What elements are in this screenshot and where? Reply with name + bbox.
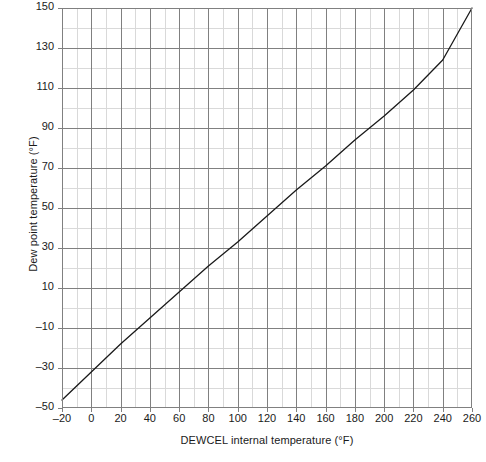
- x-tick-label-text: 40: [144, 412, 156, 424]
- x-tick-label-text: 80: [202, 412, 214, 424]
- chart-figure: Dew point temperature (°F) DEWCEL intern…: [0, 0, 486, 462]
- axis-tick-marks: [58, 9, 473, 413]
- x-tick-label-text: 220: [404, 412, 422, 424]
- x-tick-label-text: 240: [434, 412, 452, 424]
- x-tick-label-text: 120: [258, 412, 276, 424]
- plot-area: [62, 8, 472, 408]
- x-tick-label-text: 20: [114, 412, 126, 424]
- y-axis-title: Dew point temperature (°F): [22, 0, 44, 408]
- y-axis-title-text: Dew point temperature (°F): [27, 136, 39, 271]
- x-tick-label-text: 200: [375, 412, 393, 424]
- x-tick-label-text: 140: [287, 412, 305, 424]
- x-tick-label-text: –20: [53, 412, 71, 424]
- x-tick-label-text: 180: [346, 412, 364, 424]
- x-axis-title-text: DEWCEL internal temperature (°F): [181, 434, 354, 446]
- x-tick-label-text: 60: [173, 412, 185, 424]
- x-tick-label-text: 260: [463, 412, 481, 424]
- x-tick-label-text: 0: [88, 412, 94, 424]
- x-axis-title: DEWCEL internal temperature (°F): [62, 434, 472, 446]
- plot-canvas: [62, 8, 472, 408]
- x-tick-label-text: 160: [316, 412, 334, 424]
- x-tick-label-text: 100: [229, 412, 247, 424]
